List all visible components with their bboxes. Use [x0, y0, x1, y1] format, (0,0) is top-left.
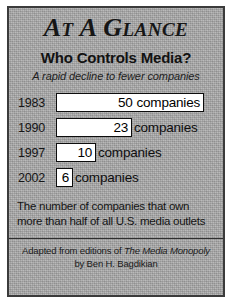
bar-value-label: 50 — [118, 95, 133, 110]
bar-unit-label: companies — [98, 145, 162, 160]
bar: 6 — [56, 168, 73, 187]
page-title: AT A GLANCE — [9, 13, 223, 45]
bar-unit-label: companies — [137, 95, 201, 110]
bar-area: 6companies — [56, 168, 139, 187]
source-line-2: by Ben H. Bagdikian — [15, 257, 217, 270]
infographic-panel: AT A GLANCE Who Controls Media? A rapid … — [7, 6, 225, 297]
caption-line-2: more than half of all U.S. media outlets — [17, 214, 215, 229]
bar-value-label: 6 — [62, 170, 69, 185]
source-line-1: Adapted from editions of The Media Monop… — [15, 244, 217, 257]
bar-row-year: 1983 — [18, 96, 56, 110]
bar-row: 198350companies — [18, 90, 223, 115]
bar-value-label: 10 — [77, 145, 92, 160]
bar: 23 — [56, 118, 132, 137]
bar-area: 10companies — [56, 143, 162, 162]
subtitle: A rapid decline to fewer companies — [9, 69, 223, 83]
bar-unit-label: companies — [75, 170, 139, 185]
bar-value-label: 23 — [113, 120, 128, 135]
caption-line-1: The number of companies that own — [17, 199, 215, 214]
bar-row: 199710companies — [18, 140, 223, 165]
title-cap-a1: A — [44, 13, 62, 42]
bar-area: 23companies — [56, 118, 198, 137]
source-book-title: The Media Monopoly — [124, 245, 210, 256]
title-rest-lance: LANCE — [122, 19, 188, 40]
title-rest-t: T — [62, 19, 74, 40]
source-attribution: Adapted from editions of The Media Monop… — [9, 239, 223, 270]
bar: 10 — [56, 143, 96, 162]
bar-unit-label: companies — [134, 120, 198, 135]
title-cap-a2: A — [80, 13, 96, 42]
bar: 50companies — [56, 93, 204, 112]
bar-row-year: 1990 — [18, 121, 56, 135]
headline: Who Controls Media? — [9, 49, 223, 67]
title-cap-g: G — [103, 13, 122, 42]
bar-row-year: 1997 — [18, 146, 56, 160]
caption: The number of companies that own more th… — [9, 199, 223, 229]
bar-row: 199023companies — [18, 115, 223, 140]
bar-row: 20026companies — [18, 165, 223, 190]
bar-area: 50companies — [56, 93, 204, 112]
bar-row-year: 2002 — [18, 171, 56, 185]
bar-chart: 198350companies199023companies199710comp… — [9, 90, 223, 190]
source-prefix: Adapted from editions of — [22, 245, 121, 256]
